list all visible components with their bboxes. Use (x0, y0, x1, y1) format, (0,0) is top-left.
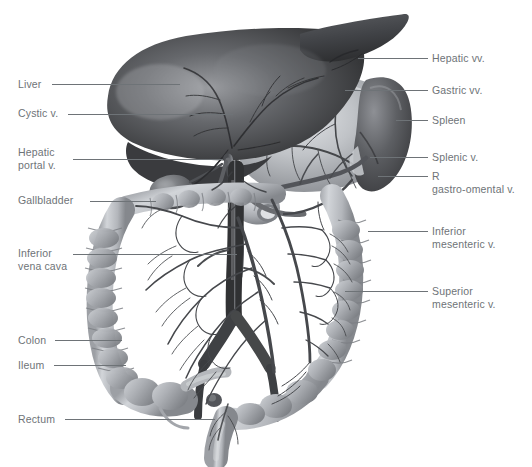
leader-liver (52, 84, 180, 85)
label-rectum: Rectum (18, 413, 55, 426)
leader-cystic-v (68, 114, 233, 115)
leader-superior-mesenteric-v (345, 291, 428, 292)
label-gallbladder: Gallbladder (18, 194, 73, 207)
leader-inferior-mesenteric-v (368, 231, 428, 232)
label-colon: Colon (18, 334, 46, 347)
anatomy-figure: Liver Cystic v. Hepatic portal v. Gallbl… (0, 0, 532, 467)
label-inferior-vena-cava: Inferior vena cava (18, 247, 67, 272)
leader-ileum (54, 365, 126, 366)
label-splenic-v: Splenic v. (432, 151, 478, 164)
label-r-gastro-omental-v: R gastro-omental v. (432, 170, 515, 195)
leader-spleen (396, 120, 428, 121)
label-ileum: Ileum (18, 359, 44, 372)
leader-r-gastro-omental-v (378, 176, 428, 177)
label-superior-mesenteric-v: Superior mesenteric v. (432, 285, 496, 310)
leader-gastric-vv (345, 90, 428, 91)
label-cystic-v: Cystic v. (18, 107, 58, 120)
label-spleen: Spleen (432, 114, 466, 127)
leader-hepatic-portal-v (73, 159, 223, 160)
label-inferior-mesenteric-v: Inferior mesenteric v. (432, 225, 496, 250)
leader-gallbladder (90, 201, 156, 202)
label-gastric-vv: Gastric vv. (432, 84, 482, 97)
leader-splenic-v (370, 157, 428, 158)
leader-colon (55, 340, 122, 341)
label-hepatic-portal-v: Hepatic portal v. (18, 146, 56, 171)
leader-rectum (65, 419, 215, 420)
label-hepatic-vv: Hepatic vv. (432, 52, 485, 65)
organ-rectum (209, 404, 238, 458)
leader-inferior-vena-cava (73, 254, 237, 255)
leader-hepatic-vv (358, 58, 428, 59)
label-liver: Liver (18, 78, 42, 91)
